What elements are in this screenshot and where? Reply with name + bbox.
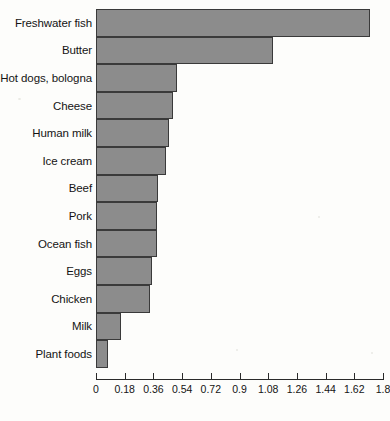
- x-axis-tick-label: 0.18: [114, 383, 134, 395]
- bar: [96, 285, 150, 313]
- bar-category-label: Hot dogs, bologna: [0, 71, 92, 84]
- x-axis-tick-label: 0.36: [143, 383, 163, 395]
- x-axis-tick: [153, 373, 154, 380]
- x-axis-tick: [96, 373, 97, 380]
- bar: [96, 147, 166, 175]
- bar-category-label: Human milk: [32, 127, 92, 140]
- x-axis-tick-label: 0.9: [232, 383, 247, 395]
- x-axis-tick: [326, 373, 327, 380]
- bar-category-label: Ice cream: [42, 154, 92, 167]
- x-axis-tick: [240, 373, 241, 380]
- bar: [96, 257, 152, 285]
- bar-row: Ocean fish: [0, 230, 390, 258]
- bar-row: Cheese: [0, 92, 390, 120]
- bar-row: Hot dogs, bologna: [0, 64, 390, 92]
- bar-row: Pork: [0, 202, 390, 230]
- x-axis-tick: [182, 373, 183, 380]
- bar-row: Human milk: [0, 119, 390, 147]
- bar-row: Beef: [0, 175, 390, 203]
- x-axis-tick: [125, 373, 126, 380]
- bar-category-label: Milk: [72, 320, 92, 333]
- x-axis-tick: [354, 373, 355, 380]
- bar-row: Milk: [0, 313, 390, 341]
- x-axis-tick: [383, 373, 384, 380]
- x-axis-tick-label: 1.62: [344, 383, 364, 395]
- bar: [96, 37, 273, 65]
- bar: [96, 119, 169, 147]
- bar: [96, 230, 157, 258]
- x-axis-tick: [211, 373, 212, 380]
- bar-category-label: Pork: [69, 209, 92, 222]
- bar-row: Chicken: [0, 285, 390, 313]
- bar-row: Freshwater fish: [0, 9, 390, 37]
- bar-row: Butter: [0, 37, 390, 65]
- bar: [96, 175, 158, 203]
- x-axis-tick-label: 0.72: [201, 383, 221, 395]
- bar: [96, 313, 121, 341]
- bar-category-label: Chicken: [51, 292, 92, 305]
- x-axis-tick-label: 1.08: [258, 383, 278, 395]
- x-axis-tick: [268, 373, 269, 380]
- bar: [96, 64, 177, 92]
- x-axis: 00.180.360.540.720.91.081.261.441.621.8: [0, 372, 390, 421]
- x-axis-tick-label: 1.44: [315, 383, 335, 395]
- bar-category-label: Eggs: [66, 265, 92, 278]
- bar: [96, 92, 173, 120]
- x-axis-tick-label: 0.54: [172, 383, 192, 395]
- bar-category-label: Beef: [69, 182, 92, 195]
- bar-category-label: Butter: [62, 44, 92, 57]
- bar-category-label: Plant foods: [36, 347, 92, 360]
- bar-category-label: Freshwater fish: [15, 16, 92, 29]
- x-axis-tick-label: 1.26: [287, 383, 307, 395]
- x-axis-tick-label: 0: [93, 383, 99, 395]
- bar-row: Plant foods: [0, 340, 390, 368]
- bar-row: Eggs: [0, 257, 390, 285]
- bar: [96, 340, 108, 368]
- bar: [96, 9, 370, 37]
- bar-row: Ice cream: [0, 147, 390, 175]
- bar-chart: Freshwater fishButterHot dogs, bolognaCh…: [0, 0, 390, 421]
- bar-category-label: Ocean fish: [38, 237, 92, 250]
- x-axis-tick: [297, 373, 298, 380]
- plot-area: Freshwater fishButterHot dogs, bolognaCh…: [0, 0, 390, 372]
- x-axis-tick-label: 1.8: [376, 383, 390, 395]
- bar-category-label: Cheese: [53, 99, 92, 112]
- bar: [96, 202, 157, 230]
